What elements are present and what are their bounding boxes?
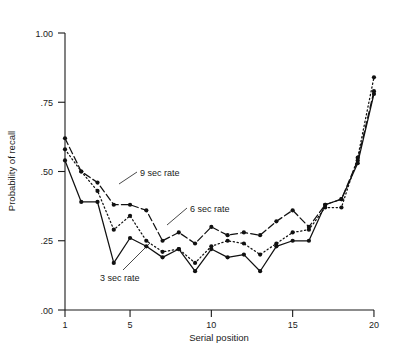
data-point bbox=[307, 228, 311, 232]
data-point bbox=[258, 233, 262, 237]
data-point bbox=[95, 189, 99, 193]
data-point bbox=[193, 241, 197, 245]
y-tick-label-0.50: .50 bbox=[40, 167, 53, 177]
x-tick-label-1: 1 bbox=[62, 320, 67, 330]
data-point bbox=[128, 203, 132, 207]
data-point bbox=[144, 208, 148, 212]
y-axis-title: Probability of recall bbox=[6, 131, 17, 211]
data-point bbox=[160, 239, 164, 243]
data-point bbox=[226, 239, 230, 243]
data-point bbox=[160, 250, 164, 254]
y-tick-label-1.00: 1.00 bbox=[35, 29, 53, 39]
data-point bbox=[193, 261, 197, 265]
data-point bbox=[144, 239, 148, 243]
data-point bbox=[274, 219, 278, 223]
data-point bbox=[209, 225, 213, 229]
data-point bbox=[258, 253, 262, 257]
serial-position-chart: 1.00 .75 .50 .25 .00 1 5 10 15 20 Serial… bbox=[0, 0, 396, 343]
data-point bbox=[372, 92, 376, 96]
data-point bbox=[209, 247, 213, 251]
x-tick-label-15: 15 bbox=[288, 320, 298, 330]
data-point bbox=[242, 241, 246, 245]
data-point bbox=[323, 203, 327, 207]
data-point bbox=[63, 136, 67, 140]
data-point bbox=[226, 233, 230, 237]
data-point bbox=[274, 244, 278, 248]
data-point bbox=[356, 161, 360, 165]
data-point bbox=[112, 261, 116, 265]
data-point bbox=[95, 200, 99, 204]
data-point bbox=[177, 230, 181, 234]
data-point bbox=[193, 269, 197, 273]
data-point bbox=[95, 180, 99, 184]
x-tick-label-10: 10 bbox=[206, 320, 216, 330]
data-point bbox=[79, 200, 83, 204]
x-tick-label-20: 20 bbox=[369, 320, 379, 330]
y-tick-label-0.00: .00 bbox=[40, 306, 53, 316]
data-point bbox=[112, 228, 116, 232]
data-point bbox=[291, 230, 295, 234]
annotation-label-6-sec: 6 sec rate bbox=[190, 204, 230, 214]
data-point bbox=[372, 75, 376, 79]
data-point bbox=[112, 203, 116, 207]
y-tick-label-0.25: .25 bbox=[40, 236, 53, 246]
data-point bbox=[128, 214, 132, 218]
data-point bbox=[339, 197, 343, 201]
data-point bbox=[242, 230, 246, 234]
y-tick-label-0.75: .75 bbox=[40, 98, 53, 108]
data-point bbox=[63, 158, 67, 162]
data-point bbox=[291, 208, 295, 212]
data-point bbox=[339, 205, 343, 209]
data-point bbox=[79, 169, 83, 173]
data-point bbox=[226, 255, 230, 259]
data-point bbox=[258, 269, 262, 273]
x-tick-label-5: 5 bbox=[128, 320, 133, 330]
data-point bbox=[177, 247, 181, 251]
data-point bbox=[291, 239, 295, 243]
data-point bbox=[307, 239, 311, 243]
data-point bbox=[242, 253, 246, 257]
data-point bbox=[128, 236, 132, 240]
x-axis-title: Serial position bbox=[189, 332, 249, 343]
data-point bbox=[63, 147, 67, 151]
data-point bbox=[160, 255, 164, 259]
annotation-label-3-sec: 3 sec rate bbox=[100, 273, 140, 283]
annotation-label-9-sec: 9 sec rate bbox=[140, 168, 180, 178]
